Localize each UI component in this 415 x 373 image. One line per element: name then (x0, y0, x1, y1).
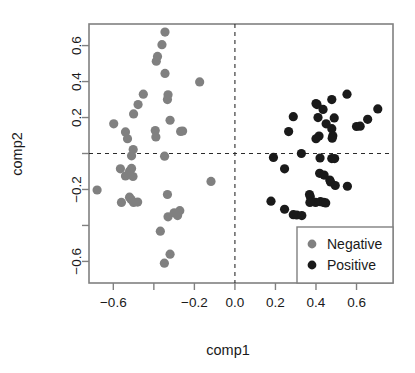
data-point-positive (373, 104, 382, 113)
data-point-negative (163, 212, 172, 221)
y-tick-label: 0.2 (69, 108, 84, 127)
data-point-negative (160, 27, 169, 36)
data-point-negative (133, 100, 142, 109)
data-point-negative (156, 227, 165, 236)
y-tick-label: 0.6 (69, 36, 84, 55)
x-tick-label: 0.4 (307, 295, 326, 310)
data-point-positive (363, 115, 372, 124)
data-point-negative (163, 190, 172, 199)
data-point-positive (331, 181, 340, 190)
data-point-positive (313, 113, 322, 122)
data-point-negative (139, 90, 148, 99)
data-point-positive (269, 153, 278, 162)
data-point-negative (128, 172, 137, 181)
data-point-negative (195, 77, 204, 86)
x-axis-title: comp1 (206, 342, 250, 358)
data-point-positive (280, 205, 289, 214)
data-point-negative (178, 126, 187, 135)
figure-background (0, 0, 415, 373)
data-point-positive (321, 198, 330, 207)
data-point-negative (173, 211, 182, 220)
data-point-positive (297, 149, 306, 158)
data-point-positive (327, 95, 336, 104)
data-point-negative (151, 132, 160, 141)
data-point-positive (280, 164, 289, 173)
x-tick-label: 0.0 (226, 295, 245, 310)
scatter-plot-figure: −0.6−0.20.00.20.40.6 0.60.40.2−0.2−0.6 N… (0, 0, 415, 373)
y-tick-label: −0.6 (69, 248, 84, 275)
data-point-positive (330, 154, 339, 163)
data-point-positive (284, 127, 293, 136)
legend-label-positive: Positive (327, 257, 376, 273)
data-point-negative (129, 109, 138, 118)
legend-marker-positive (308, 261, 317, 270)
data-point-positive (356, 122, 365, 131)
data-point-negative (163, 95, 172, 104)
data-point-negative (117, 198, 126, 207)
x-tick-label: 0.6 (347, 295, 366, 310)
data-point-positive (311, 134, 320, 143)
data-point-positive (315, 153, 324, 162)
data-point-positive (330, 113, 339, 122)
data-point-negative (152, 57, 161, 66)
y-axis-title: comp2 (9, 132, 25, 176)
data-point-positive (318, 105, 327, 114)
data-point-negative (206, 177, 215, 186)
y-tick-label: −0.2 (69, 176, 84, 203)
data-point-negative (165, 116, 174, 125)
legend-label-negative: Negative (327, 236, 382, 252)
data-point-negative (127, 151, 136, 160)
x-tick-label: 0.2 (266, 295, 285, 310)
chart-canvas: −0.6−0.20.00.20.40.6 0.60.40.2−0.2−0.6 N… (0, 0, 415, 373)
data-point-negative (133, 197, 142, 206)
data-point-negative (123, 134, 132, 143)
data-point-positive (289, 112, 298, 121)
x-tick-label: −0.2 (181, 295, 208, 310)
data-point-negative (93, 185, 102, 194)
data-point-negative (157, 40, 166, 49)
data-point-positive (266, 197, 275, 206)
data-point-positive (342, 90, 351, 99)
data-point-positive (343, 182, 352, 191)
data-point-positive (328, 134, 337, 143)
data-point-positive (305, 198, 314, 207)
data-point-negative (109, 119, 118, 128)
data-point-negative (165, 250, 174, 259)
data-point-negative (160, 69, 169, 78)
legend-marker-negative (308, 240, 317, 249)
y-tick-label: 0.4 (69, 72, 84, 91)
data-point-negative (160, 152, 169, 161)
data-point-positive (297, 211, 306, 220)
data-point-negative (160, 259, 169, 268)
chart-legend: NegativePositive (297, 227, 393, 283)
x-tick-label: −0.6 (100, 295, 127, 310)
